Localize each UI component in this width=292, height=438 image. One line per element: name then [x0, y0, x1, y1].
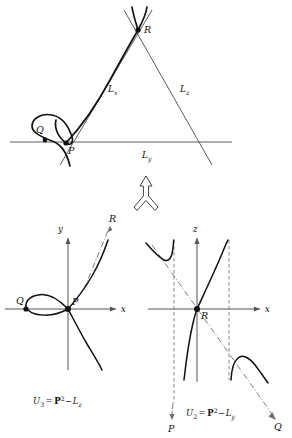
right-label-x-axis: x: [265, 304, 270, 314]
connector-arrow: [134, 176, 158, 211]
right-diagonal-ray: [152, 245, 272, 414]
left-label-x-axis: x: [121, 304, 126, 314]
left-R-ray: [84, 226, 110, 289]
label-R-top: R: [143, 24, 151, 35]
right-point-R-dot: [194, 306, 200, 312]
cubic-loop-top: [32, 115, 72, 166]
right-z-axis-arrowhead: [194, 238, 199, 244]
left-chart-caption: U3=P2−Lz: [33, 395, 82, 408]
left-label-Q: Q: [16, 295, 24, 306]
right-P-arrowhead: [169, 414, 174, 420]
left-point-Q-dot: [23, 306, 28, 311]
label-Lx: Lx: [107, 84, 118, 96]
left-R-ray-arrowhead: [107, 226, 112, 232]
right-chart: R P Q x z U2=P2−Ly: [146, 224, 282, 434]
right-branch-lower-right: [231, 356, 268, 383]
right-label-Q: Q: [274, 421, 282, 432]
left-y-axis-arrowhead: [65, 238, 70, 244]
left-cubic-lower-branch: [68, 309, 102, 370]
left-cubic-loop: [26, 295, 68, 316]
left-label-R: R: [108, 213, 116, 224]
right-x-axis-arrowhead: [254, 306, 260, 311]
left-label-P: P: [71, 296, 79, 307]
left-x-axis-arrowhead: [110, 306, 116, 311]
right-branch-upper-left: [146, 240, 174, 261]
y-shaped-up-arrow-icon: [134, 176, 158, 211]
right-label-R: R: [200, 310, 208, 321]
left-point-P-dot: [65, 306, 71, 312]
figure-root: R P Q Lx Ly Lz: [0, 0, 292, 438]
top-panel: R P Q Lx Ly Lz: [10, 7, 232, 166]
point-Q-dot: [43, 138, 48, 143]
label-Ly: Ly: [141, 150, 152, 163]
label-Lz: Lz: [179, 84, 190, 96]
left-chart: P Q R x y U3=P2−Lz: [5, 213, 126, 408]
figure-canvas: R P Q Lx Ly Lz: [0, 0, 292, 438]
label-Q-top: Q: [36, 124, 44, 135]
point-R-dot: [135, 27, 140, 32]
label-P-top: P: [67, 145, 75, 156]
right-chart-caption: U2=P2−Ly: [186, 407, 235, 421]
right-label-z-axis: z: [192, 224, 198, 234]
right-label-P: P: [167, 423, 175, 434]
right-Q-arrowhead: [269, 412, 277, 420]
left-label-y-axis: y: [57, 224, 63, 234]
cubic-arc-to-R: [66, 7, 147, 143]
